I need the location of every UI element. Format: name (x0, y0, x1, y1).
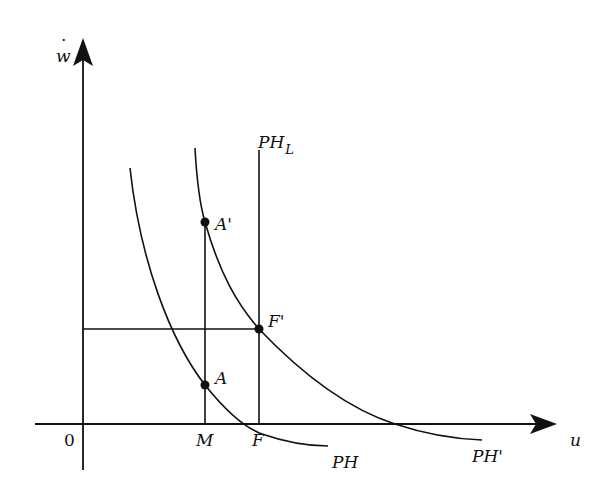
point-a-label: A (213, 368, 227, 388)
y-axis-label-dot: · (61, 30, 66, 50)
ph-curve (130, 168, 328, 446)
diagram-canvas: w · u 0 M F PH PH' PHL A' A F' (0, 0, 609, 494)
point-f-prime-label: F' (267, 311, 284, 331)
tick-label-f: F (251, 430, 265, 450)
x-axis-label: u (570, 430, 581, 450)
ph-label: PH (331, 452, 359, 472)
point-a-prime (201, 218, 210, 227)
ph-prime-label: PH' (471, 446, 503, 466)
ph-prime-curve (195, 148, 482, 440)
point-a (201, 381, 210, 390)
tick-label-m: M (195, 430, 214, 450)
point-a-prime-label: A' (213, 214, 232, 234)
ph-l-label: PHL (257, 132, 294, 157)
origin-label: 0 (64, 430, 75, 450)
point-f-prime (255, 325, 264, 334)
